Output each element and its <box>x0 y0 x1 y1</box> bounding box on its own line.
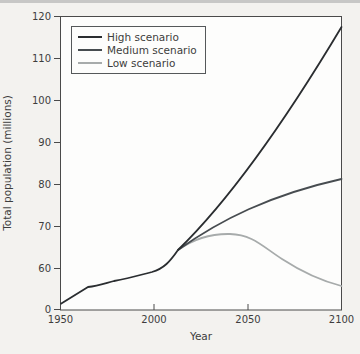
y-tick-label: 120 <box>32 11 51 22</box>
x-tick-label: 1950 <box>48 314 73 325</box>
y-tick-label: 100 <box>32 95 51 106</box>
legend-label-low: Low scenario <box>107 57 175 69</box>
population-projection-figure: 120 110 100 90 80 70 60 0 1950 2000 2050… <box>0 3 360 354</box>
y-tick-label: 60 <box>38 263 51 274</box>
legend-label-medium: Medium scenario <box>107 44 197 56</box>
y-axis-ticks <box>54 17 61 310</box>
y-tick-label: 90 <box>38 137 51 148</box>
x-axis-tick-labels: 1950 2000 2050 2100 <box>48 314 354 325</box>
y-tick-label: 110 <box>32 53 51 64</box>
x-tick-label: 2050 <box>235 314 260 325</box>
population-chart: 120 110 100 90 80 70 60 0 1950 2000 2050… <box>0 3 360 354</box>
x-tick-label: 2100 <box>329 314 354 325</box>
x-axis-title: Year <box>189 330 213 342</box>
y-tick-label: 70 <box>38 221 51 232</box>
legend-label-high: High scenario <box>107 31 179 43</box>
x-tick-label: 2000 <box>141 314 166 325</box>
y-axis-tick-labels: 120 110 100 90 80 70 60 0 <box>32 11 51 315</box>
legend: High scenario Medium scenario Low scenar… <box>72 27 206 74</box>
y-tick-label: 80 <box>38 179 51 190</box>
y-axis-title: Total population (millions) <box>1 95 13 232</box>
